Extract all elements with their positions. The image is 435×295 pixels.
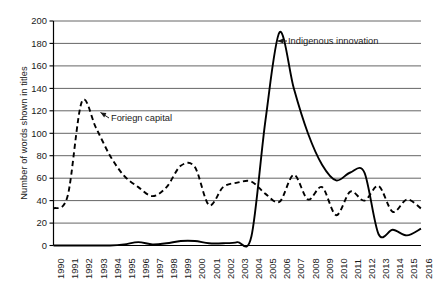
x-tick-label: 2014 — [396, 258, 405, 279]
x-tick-label: 1991 — [71, 258, 80, 279]
x-tick-label: 2009 — [326, 258, 335, 279]
line-chart-figure: Number of words shown in titles 02040608… — [0, 0, 435, 295]
x-tick-label: 2000 — [198, 258, 207, 279]
annotation-foreign-capital: Foriegn capital — [111, 113, 172, 123]
x-tick-label: 1992 — [85, 258, 94, 279]
x-tick-label: 2007 — [297, 258, 306, 279]
x-tick-label: 2013 — [382, 258, 391, 279]
x-tick-label: 1994 — [114, 258, 123, 279]
x-tick-label: 1998 — [170, 258, 179, 279]
x-tick-label: 2006 — [283, 258, 292, 279]
x-tick-label: 1999 — [184, 258, 193, 279]
x-tick-label: 1996 — [142, 258, 151, 279]
x-tick-label: 2012 — [368, 258, 377, 279]
x-tick-label: 1993 — [100, 258, 109, 279]
x-tick-label: 2003 — [241, 258, 250, 279]
x-tick-label: 2008 — [312, 258, 321, 279]
x-tick-label: 2016 — [425, 258, 434, 279]
x-tick-label: 1990 — [57, 258, 66, 279]
x-tick-label: 2011 — [354, 259, 363, 279]
annotation-indigenous-innovation: Indigenous innovation — [288, 36, 378, 46]
x-tick-label: 2015 — [410, 258, 419, 279]
x-tick-label: 1995 — [128, 258, 137, 279]
x-tick-label: 2005 — [269, 258, 278, 279]
x-tick-label: 1997 — [156, 258, 165, 279]
x-tick-label: 2010 — [340, 258, 349, 279]
x-tick-label: 2004 — [255, 258, 264, 279]
x-tick-label: 2001 — [213, 258, 222, 279]
x-tick-label: 2002 — [227, 258, 236, 279]
